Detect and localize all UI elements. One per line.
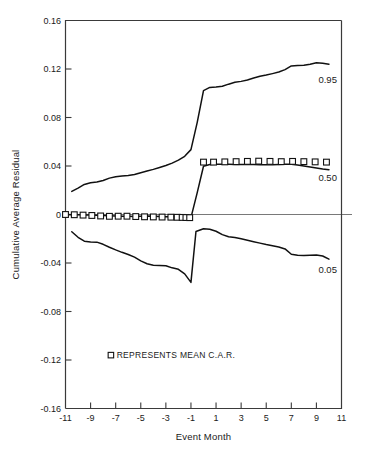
mean-car-square bbox=[290, 158, 296, 164]
cumulative-average-residual-chart: -11-9-7-5-3-11357911 0.160.120.080.040-0… bbox=[0, 0, 371, 452]
mean-car-square bbox=[233, 159, 239, 165]
x-tick-label: 1 bbox=[214, 413, 219, 423]
y-tick-label: 0.12 bbox=[43, 64, 61, 74]
chart-figure: -11-9-7-5-3-11357911 0.160.120.080.040-0… bbox=[0, 0, 371, 452]
y-tick-label: -0.04 bbox=[40, 258, 61, 268]
mean-car-square bbox=[222, 159, 228, 165]
x-tick-label: -3 bbox=[162, 413, 170, 423]
mean-car-square bbox=[267, 158, 273, 164]
x-axis-title: Event Month bbox=[176, 431, 232, 442]
series-label-0-50: 0.50 bbox=[318, 172, 337, 183]
y-tick-label: 0 bbox=[56, 210, 61, 220]
mean-car-square bbox=[71, 212, 77, 218]
y-tick-label: 0.04 bbox=[43, 161, 61, 171]
x-tick-label: -5 bbox=[137, 413, 145, 423]
mean-car-square bbox=[324, 159, 330, 165]
mean-car-square bbox=[124, 213, 130, 219]
x-tick-label: -1 bbox=[187, 413, 195, 423]
x-tick-label: -9 bbox=[87, 413, 95, 423]
mean-car-square bbox=[115, 213, 121, 219]
mean-car-square bbox=[278, 159, 284, 165]
mean-car-square bbox=[63, 212, 69, 218]
mean-car-square bbox=[256, 158, 262, 164]
legend-square-icon bbox=[108, 352, 114, 358]
mean-car-square bbox=[312, 159, 318, 165]
y-tick-label: -0.08 bbox=[40, 307, 61, 317]
y-tick-label: 0.16 bbox=[43, 16, 61, 26]
x-tick-label: 9 bbox=[314, 413, 319, 423]
legend: REPRESENTS MEAN C.A.R. bbox=[108, 350, 235, 360]
x-tick-label: 11 bbox=[337, 413, 346, 423]
x-tick-label: 7 bbox=[289, 413, 294, 423]
x-tick-label: 5 bbox=[264, 413, 269, 423]
mean-car-square bbox=[168, 214, 174, 220]
mean-car-square bbox=[89, 213, 95, 219]
legend-label: REPRESENTS MEAN C.A.R. bbox=[117, 350, 236, 360]
mean-car-square bbox=[187, 215, 193, 221]
mean-car-square bbox=[245, 158, 251, 164]
series-label-0-05: 0.05 bbox=[318, 264, 337, 275]
series-label-0-95: 0.95 bbox=[318, 74, 337, 85]
mean-car-square bbox=[80, 212, 86, 218]
y-tick-label: -0.16 bbox=[40, 404, 61, 414]
mean-car-square bbox=[150, 214, 156, 220]
y-axis-title: Cumulative Average Residual bbox=[10, 150, 21, 280]
mean-car-square bbox=[107, 213, 113, 219]
y-tick-label: -0.12 bbox=[40, 355, 61, 365]
mean-car-square bbox=[133, 214, 139, 220]
mean-car-square bbox=[301, 159, 307, 165]
x-tick-label: 3 bbox=[239, 413, 244, 423]
x-tick-label: -7 bbox=[112, 413, 120, 423]
mean-car-square bbox=[211, 159, 217, 165]
mean-car-square bbox=[98, 213, 104, 219]
x-tick-label: -11 bbox=[59, 413, 71, 423]
mean-car-square bbox=[159, 214, 165, 220]
mean-car-square bbox=[142, 214, 148, 220]
y-tick-label: 0.08 bbox=[43, 113, 61, 123]
mean-car-square bbox=[201, 159, 207, 165]
